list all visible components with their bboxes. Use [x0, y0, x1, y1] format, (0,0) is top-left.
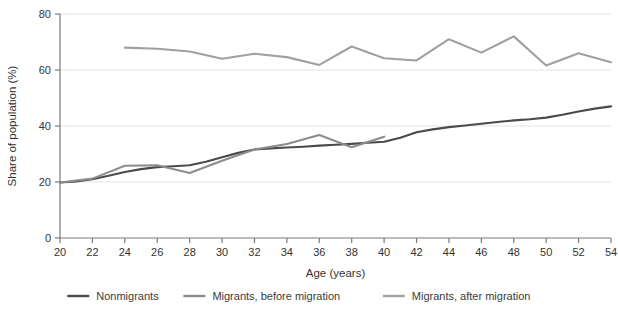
x-axis-title: Age (years) — [306, 267, 366, 279]
legend-label-2: Migrants, after migration — [412, 290, 531, 302]
legend-label-0: Nonmigrants — [96, 290, 159, 302]
series-line-2 — [125, 36, 611, 65]
legend-label-1: Migrants, before migration — [212, 290, 340, 302]
chart-container: 0204060802022242628303234363840424446485… — [0, 0, 618, 309]
x-tick-label: 48 — [508, 246, 520, 258]
y-tick-label: 60 — [39, 64, 51, 76]
y-tick-label: 40 — [39, 120, 51, 132]
x-tick-label: 50 — [540, 246, 552, 258]
y-tick-label: 80 — [39, 8, 51, 20]
x-tick-label: 22 — [86, 246, 98, 258]
x-tick-label: 44 — [443, 246, 455, 258]
y-axis-title: Share of population (%) — [6, 65, 18, 186]
x-tick-label: 30 — [216, 246, 228, 258]
x-tick-label: 24 — [119, 246, 131, 258]
x-tick-label: 54 — [605, 246, 617, 258]
x-tick-label: 34 — [281, 246, 293, 258]
x-tick-label: 32 — [248, 246, 260, 258]
y-tick-label: 20 — [39, 176, 51, 188]
x-tick-label: 42 — [410, 246, 422, 258]
series-line-0 — [60, 106, 611, 182]
x-tick-label: 20 — [54, 246, 66, 258]
x-tick-label: 38 — [346, 246, 358, 258]
x-tick-label: 40 — [378, 246, 390, 258]
x-tick-label: 46 — [475, 246, 487, 258]
x-tick-label: 52 — [572, 246, 584, 258]
x-tick-label: 28 — [184, 246, 196, 258]
x-tick-label: 26 — [151, 246, 163, 258]
x-tick-label: 36 — [313, 246, 325, 258]
y-tick-label: 0 — [45, 232, 51, 244]
line-chart: 0204060802022242628303234363840424446485… — [0, 0, 618, 309]
